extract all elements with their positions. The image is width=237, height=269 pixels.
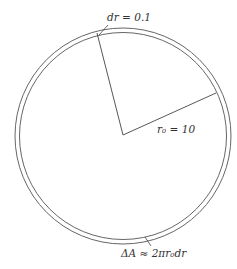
area-label: ΔA ≈ 2πr₀dr bbox=[120, 247, 187, 259]
annulus-diagram: dr = 0.1 r₀ = 10 ΔA ≈ 2πr₀dr bbox=[0, 0, 237, 269]
r0-label: r₀ = 10 bbox=[157, 123, 195, 135]
inner-circle bbox=[20, 33, 227, 240]
radius-line-upper bbox=[97, 33, 123, 135]
dr-label: dr = 0.1 bbox=[107, 11, 151, 23]
outer-circle bbox=[15, 28, 231, 244]
